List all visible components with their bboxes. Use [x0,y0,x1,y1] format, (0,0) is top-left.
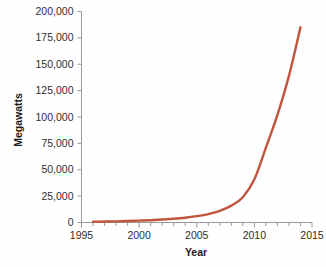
x-tick-label: 2000 [127,229,151,241]
y-tick-label: 150,000 [36,58,74,70]
y-tick-label: 125,000 [36,84,74,96]
y-tick-label: 200,000 [36,5,74,17]
x-tick-label: 2005 [185,229,209,241]
y-tick-label: 100,000 [36,111,74,123]
x-tick-label: 2015 [300,229,324,241]
y-tick-label: 75,000 [41,137,73,149]
line-chart: 025,00050,00075,000100,000125,000150,000… [0,0,326,267]
x-tick-label: 1995 [70,229,94,241]
y-axis-title: Megawatts [12,93,24,147]
y-tick-label: 25,000 [41,190,73,202]
y-tick-label: 175,000 [36,31,74,43]
x-axis-title: Year [185,246,207,258]
x-tick-label: 2010 [243,229,267,241]
y-tick-label: 50,000 [41,163,73,175]
y-tick-label: 0 [68,216,74,228]
chart-figure: 025,00050,00075,000100,000125,000150,000… [0,0,326,267]
